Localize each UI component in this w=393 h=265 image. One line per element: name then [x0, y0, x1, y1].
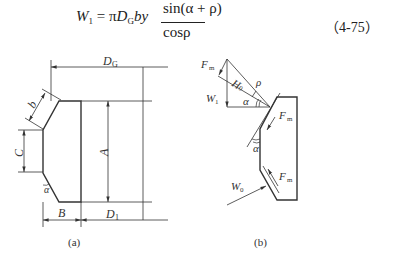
figure-b-labels: F m H0 ρ W 1 α F m α F m W 0 (b) [200, 58, 293, 249]
figure-page: W1 = πDGby sin(α + ρ) cosρ （4-75） [0, 0, 393, 265]
label-b-slant: b [25, 98, 40, 110]
b-ext-1 [42, 89, 61, 100]
rho-tick [252, 91, 256, 97]
label-alpha-lower: α [253, 142, 259, 154]
label-fm-bottom-sub: m [287, 176, 293, 184]
fm-arrow-mid [267, 117, 275, 130]
label-w0-sub: 0 [240, 186, 244, 194]
label-b-width: B [58, 206, 66, 220]
label-dg: D [102, 54, 112, 68]
label-d1-sub: 1 [115, 213, 119, 222]
label-fm-mid: F [278, 109, 286, 121]
label-c: C [12, 148, 26, 157]
label-fm-top: F [200, 58, 208, 70]
label-rho: ρ [255, 76, 261, 88]
label-fm-top-sub: m [209, 64, 215, 72]
label-h0: H0 [229, 76, 246, 93]
label-d1: D [105, 207, 115, 221]
fm-arrow-top [219, 59, 227, 75]
label-fm-mid-sub: m [287, 115, 293, 123]
caption-a: (a) [68, 236, 81, 249]
diagram-svg: D G b C A α B D 1 (a) [0, 0, 393, 265]
label-alpha-a: α [44, 184, 50, 195]
b-ext-2 [25, 118, 43, 129]
label-w1-sub: 1 [215, 98, 219, 106]
alpha-arc-lower [252, 139, 260, 140]
figure-a [18, 60, 168, 227]
label-dg-sub: G [112, 60, 118, 69]
caption-b: (b) [254, 236, 267, 249]
label-alpha-top: α [243, 95, 249, 107]
label-a: A [97, 148, 111, 157]
label-fm-bottom: F [278, 170, 286, 182]
slant-line [247, 93, 280, 147]
